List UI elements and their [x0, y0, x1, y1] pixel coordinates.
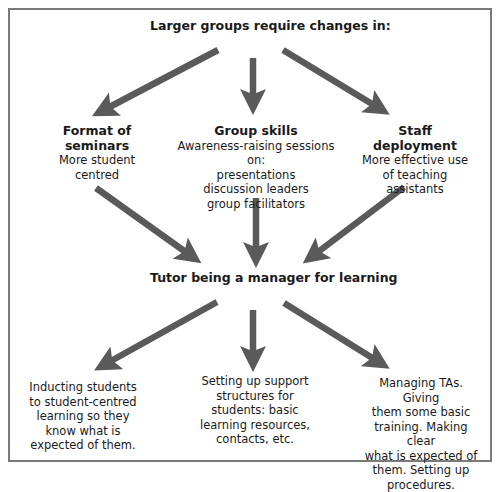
outcome-line: them. Setting up [360, 463, 482, 478]
outcome-line: them some basic [360, 405, 482, 420]
outcome-line: Managing TAs. Giving [360, 376, 482, 405]
outcome-line: expected of them. [28, 438, 138, 453]
arrow-tutor-to-inducting [102, 302, 217, 366]
outcome-line: procedures. [360, 478, 482, 492]
arrow-top-to-format [100, 50, 218, 112]
outcome-managing-tas: Managing TAs. Giving them some basic tra… [360, 376, 482, 492]
arrow-tutor-to-managing [284, 303, 382, 364]
outcome-line: Inducting students [28, 380, 138, 395]
outcome-line: contacts, etc. [200, 432, 310, 447]
branch-body-line: discussion leaders [176, 182, 336, 197]
outcome-line: know what is [28, 424, 138, 439]
branch-format-of-seminars: Format of seminars More student centred [42, 124, 152, 182]
branch-title-line: Group skills [176, 124, 336, 139]
branch-body-line: assistants [360, 182, 470, 197]
branch-body-line: Awareness-raising sessions on: [176, 139, 336, 168]
arrow-top-to-staff [283, 50, 382, 110]
center-heading: Tutor being a manager for learning [150, 270, 360, 285]
outcome-line: to student-centred [28, 395, 138, 410]
branch-group-skills: Group skills Awareness-raising sessions … [176, 124, 336, 211]
top-heading: Larger groups require changes in: [150, 18, 350, 33]
outcome-line: what is expected of [360, 449, 482, 464]
outcome-line: students: basic [200, 403, 310, 418]
branch-body-line: of teaching [360, 168, 470, 183]
outcome-line: Setting up support [200, 374, 310, 389]
branch-body-line: presentations [176, 168, 336, 183]
outcome-support-structures: Setting up support structures for studen… [200, 374, 310, 447]
branch-body-line: More student [42, 153, 152, 168]
branch-body-line: group facilitators [176, 197, 336, 212]
branch-body-line: centred [42, 168, 152, 183]
branch-title-line: seminars [42, 139, 152, 154]
branch-staff-deployment: Staff deployment More effective use of t… [360, 124, 470, 197]
outcome-inducting-students: Inducting students to student-centred le… [28, 380, 138, 453]
outcome-line: structures for [200, 389, 310, 404]
branch-title-line: Format of [42, 124, 152, 139]
outcome-line: training. Making clear [360, 420, 482, 449]
branch-body-line: More effective use [360, 153, 470, 168]
outcome-line: learning resources, [200, 418, 310, 433]
branch-title-line: Staff deployment [360, 124, 470, 153]
outcome-line: learning so they [28, 409, 138, 424]
